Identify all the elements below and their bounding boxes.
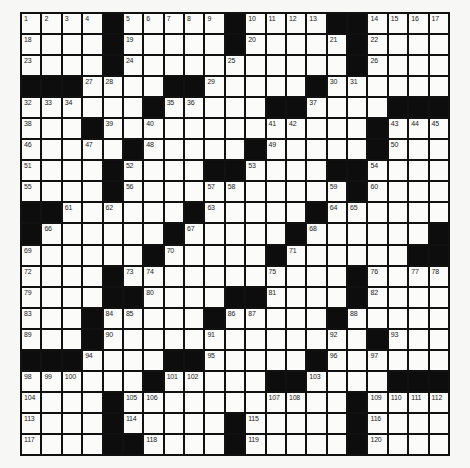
grid-cell[interactable]: 12 xyxy=(287,14,305,33)
grid-cell[interactable] xyxy=(104,224,122,243)
grid-cell[interactable]: 21 xyxy=(328,35,346,54)
grid-cell[interactable]: 84 xyxy=(104,309,122,328)
grid-cell[interactable] xyxy=(83,56,101,75)
grid-cell[interactable] xyxy=(409,140,427,159)
grid-cell[interactable]: 106 xyxy=(144,393,162,412)
grid-cell[interactable] xyxy=(307,35,325,54)
grid-cell[interactable] xyxy=(185,309,203,328)
grid-cell[interactable]: 26 xyxy=(368,56,386,75)
grid-cell[interactable]: 80 xyxy=(144,288,162,307)
grid-cell[interactable] xyxy=(307,119,325,138)
grid-cell[interactable] xyxy=(328,140,346,159)
grid-cell[interactable] xyxy=(165,161,183,180)
grid-cell[interactable] xyxy=(63,119,81,138)
grid-cell[interactable] xyxy=(104,98,122,117)
grid-cell[interactable]: 76 xyxy=(368,267,386,286)
grid-cell[interactable] xyxy=(368,77,386,96)
grid-cell[interactable] xyxy=(267,351,285,370)
grid-cell[interactable] xyxy=(63,35,81,54)
grid-cell[interactable] xyxy=(307,393,325,412)
grid-cell[interactable]: 74 xyxy=(144,267,162,286)
grid-cell[interactable] xyxy=(409,77,427,96)
grid-cell[interactable]: 65 xyxy=(348,203,366,222)
grid-cell[interactable]: 27 xyxy=(83,77,101,96)
grid-cell[interactable] xyxy=(267,309,285,328)
grid-cell[interactable] xyxy=(267,161,285,180)
grid-cell[interactable] xyxy=(348,224,366,243)
grid-cell[interactable] xyxy=(205,119,223,138)
grid-cell[interactable]: 97 xyxy=(368,351,386,370)
grid-cell[interactable]: 44 xyxy=(409,119,427,138)
grid-cell[interactable]: 25 xyxy=(226,56,244,75)
grid-cell[interactable]: 8 xyxy=(185,14,203,33)
grid-cell[interactable] xyxy=(348,372,366,391)
grid-cell[interactable]: 28 xyxy=(104,77,122,96)
grid-cell[interactable] xyxy=(42,56,60,75)
grid-cell[interactable] xyxy=(246,182,264,201)
grid-cell[interactable] xyxy=(124,119,142,138)
grid-cell[interactable] xyxy=(328,246,346,265)
grid-cell[interactable] xyxy=(104,246,122,265)
grid-cell[interactable] xyxy=(246,119,264,138)
grid-cell[interactable] xyxy=(42,330,60,349)
grid-cell[interactable] xyxy=(328,56,346,75)
grid-cell[interactable]: 34 xyxy=(63,98,81,117)
grid-cell[interactable] xyxy=(165,414,183,433)
grid-cell[interactable] xyxy=(165,140,183,159)
grid-cell[interactable] xyxy=(165,203,183,222)
grid-cell[interactable]: 46 xyxy=(22,140,40,159)
grid-cell[interactable] xyxy=(409,435,427,454)
grid-cell[interactable] xyxy=(42,267,60,286)
grid-cell[interactable] xyxy=(185,182,203,201)
grid-cell[interactable]: 98 xyxy=(22,372,40,391)
grid-cell[interactable] xyxy=(42,414,60,433)
grid-cell[interactable] xyxy=(430,309,448,328)
grid-cell[interactable]: 62 xyxy=(104,203,122,222)
grid-cell[interactable] xyxy=(144,56,162,75)
grid-cell[interactable]: 109 xyxy=(368,393,386,412)
grid-cell[interactable] xyxy=(430,203,448,222)
grid-cell[interactable]: 117 xyxy=(22,435,40,454)
grid-cell[interactable]: 102 xyxy=(185,372,203,391)
grid-cell[interactable]: 56 xyxy=(124,182,142,201)
grid-cell[interactable] xyxy=(205,288,223,307)
grid-cell[interactable] xyxy=(124,77,142,96)
grid-cell[interactable]: 67 xyxy=(185,224,203,243)
grid-cell[interactable] xyxy=(348,98,366,117)
grid-cell[interactable] xyxy=(205,35,223,54)
grid-cell[interactable]: 11 xyxy=(267,14,285,33)
grid-cell[interactable] xyxy=(226,393,244,412)
grid-cell[interactable]: 105 xyxy=(124,393,142,412)
grid-cell[interactable] xyxy=(246,56,264,75)
grid-cell[interactable]: 107 xyxy=(267,393,285,412)
grid-cell[interactable] xyxy=(205,393,223,412)
grid-cell[interactable] xyxy=(348,330,366,349)
grid-cell[interactable]: 48 xyxy=(144,140,162,159)
grid-cell[interactable]: 49 xyxy=(267,140,285,159)
grid-cell[interactable]: 2 xyxy=(42,14,60,33)
grid-cell[interactable] xyxy=(165,119,183,138)
grid-cell[interactable]: 35 xyxy=(165,98,183,117)
grid-cell[interactable] xyxy=(83,224,101,243)
grid-cell[interactable]: 104 xyxy=(22,393,40,412)
grid-cell[interactable]: 54 xyxy=(368,161,386,180)
grid-cell[interactable] xyxy=(83,246,101,265)
grid-cell[interactable] xyxy=(144,182,162,201)
grid-cell[interactable]: 61 xyxy=(63,203,81,222)
grid-cell[interactable] xyxy=(328,224,346,243)
grid-cell[interactable]: 114 xyxy=(124,414,142,433)
grid-cell[interactable] xyxy=(63,414,81,433)
grid-cell[interactable] xyxy=(42,119,60,138)
grid-cell[interactable] xyxy=(185,246,203,265)
grid-cell[interactable] xyxy=(430,35,448,54)
grid-cell[interactable]: 53 xyxy=(246,161,264,180)
grid-cell[interactable] xyxy=(124,372,142,391)
grid-cell[interactable]: 69 xyxy=(22,246,40,265)
grid-cell[interactable]: 1 xyxy=(22,14,40,33)
grid-cell[interactable] xyxy=(144,77,162,96)
grid-cell[interactable] xyxy=(307,435,325,454)
grid-cell[interactable] xyxy=(389,414,407,433)
grid-cell[interactable]: 4 xyxy=(83,14,101,33)
grid-cell[interactable] xyxy=(83,393,101,412)
grid-cell[interactable]: 43 xyxy=(389,119,407,138)
